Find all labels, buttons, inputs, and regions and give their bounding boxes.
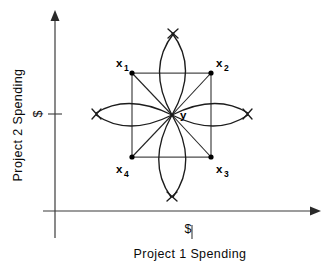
data-point-x1-label-base: x <box>116 57 123 69</box>
y-axis-currency-symbol: $ <box>31 110 45 117</box>
petal-up-arc-left <box>159 33 174 115</box>
figure-container: x 1 x 2 x 3 x 4 y $ <box>0 0 336 271</box>
x-axis-arrowhead <box>310 207 321 216</box>
data-point-x4-marker <box>129 154 134 159</box>
petal-down <box>159 115 186 201</box>
data-point-x2-marker <box>208 70 213 75</box>
data-point-y-label: y <box>180 109 187 121</box>
petal-right-tip-cross <box>243 109 252 119</box>
petal-left-arc-top <box>96 103 172 115</box>
data-point-x3-label-base: x <box>216 163 223 175</box>
data-point-x1-label-subscript: 1 <box>124 63 129 73</box>
petal-up-tip-cross <box>168 29 178 38</box>
data-point-x2-label-subscript: 2 <box>224 63 229 73</box>
y-axis-title: Project 2 Spending <box>11 69 25 182</box>
data-point-x4-label-base: x <box>116 163 123 175</box>
data-point-x2-label: x 2 <box>216 57 229 73</box>
data-point-x3-marker <box>208 154 213 159</box>
diagonal-x1-to-y <box>132 73 172 115</box>
diagonal-x3-to-y <box>172 115 211 157</box>
y-axis-arrowhead <box>51 10 60 21</box>
petal-down-tip-cross <box>167 192 177 201</box>
petal-left-tip-cross <box>92 109 101 119</box>
diagonal-x2-to-y <box>172 73 211 115</box>
data-point-x1-label: x 1 <box>116 57 129 73</box>
x-axis-currency-symbol: $ <box>185 222 192 236</box>
data-point-x3-label-subscript: 3 <box>224 169 229 179</box>
data-point-x3-label: x 3 <box>216 163 229 179</box>
data-point-x4-label: x 4 <box>116 163 129 179</box>
data-point-x1-marker <box>129 70 134 75</box>
petal-left-arc-bottom <box>96 115 172 126</box>
axes-group <box>43 10 321 239</box>
diagram-canvas: x 1 x 2 x 3 x 4 y $ <box>0 0 336 271</box>
data-point-x2-label-base: x <box>216 57 223 69</box>
diagonal-x4-to-y <box>132 115 172 157</box>
data-point-x4-label-subscript: 4 <box>124 169 129 179</box>
petal-up <box>159 29 185 115</box>
x-axis-title: Project 1 Spending <box>134 247 247 261</box>
